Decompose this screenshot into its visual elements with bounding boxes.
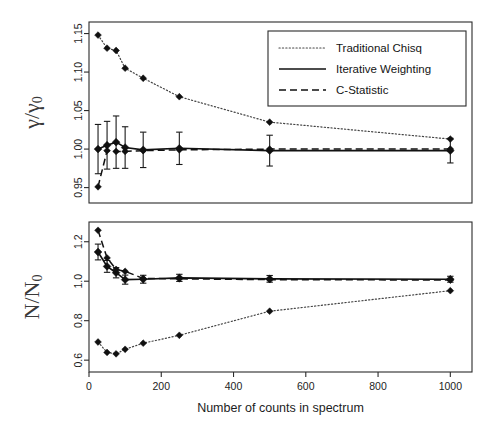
data-point-marker [122,346,129,353]
data-point-marker [122,268,129,275]
y-tick-label: 1.10 [72,62,84,83]
x-tick-label: 1000 [439,380,463,392]
data-point-marker [447,287,454,294]
counts-panel: 0.60.81.01.2N/N0 [19,222,472,372]
y-tick-label: 1.2 [72,234,84,249]
data-point-marker [113,148,120,155]
data-point-marker [266,308,273,315]
y-tick-label: 0.95 [72,177,84,198]
data-point-marker [176,332,183,339]
data-point-marker [94,145,102,153]
chart-canvas: 0.951.001.051.101.15γ/γ00.60.81.01.2N/N0… [0,0,494,435]
y-tick-label: 1.05 [72,100,84,121]
data-point-marker [176,93,183,100]
legend-label: Traditional Chisq [336,42,422,54]
series-line-dashed [98,149,450,187]
data-point-marker [447,136,454,143]
legend-label: C-Statistic [336,84,389,96]
y-axis-title: N/N0 [19,275,45,320]
data-point-marker [113,350,120,357]
data-point-marker [122,65,129,72]
data-point-marker [95,32,102,39]
panel-frame [89,222,472,372]
y-tick-label: 1.15 [72,23,84,44]
series-line-dotted [98,291,450,354]
y-tick-label: 1.0 [72,274,84,289]
legend: Traditional ChisqIterative WeightingC-St… [268,31,466,106]
data-point-marker [95,227,102,234]
data-point-marker [140,75,147,82]
x-tick-label: 400 [225,380,243,392]
data-point-marker [94,248,102,256]
data-point-marker [95,183,102,190]
y-axis-title: γ/γ0 [19,96,45,130]
x-axis: 02004006008001000Number of counts in spe… [86,372,462,415]
data-point-marker [104,147,111,154]
data-point-marker [140,340,147,347]
data-point-marker [104,45,111,52]
y-tick-label: 1.00 [72,139,84,160]
x-tick-label: 600 [297,380,315,392]
x-tick-label: 0 [86,380,92,392]
figure-container: 0.951.001.051.101.15γ/γ00.60.81.01.2N/N0… [0,0,494,435]
x-tick-label: 800 [369,380,387,392]
x-axis-title: Number of counts in spectrum [197,401,364,415]
legend-label: Iterative Weighting [336,63,431,75]
data-point-marker [113,47,120,54]
series-line-solid [98,252,450,280]
data-point-marker [266,119,273,126]
y-tick-label: 0.6 [72,353,84,368]
series-line-dashed [98,230,450,280]
x-tick-label: 200 [152,380,170,392]
y-tick-label: 0.8 [72,313,84,328]
data-point-marker [112,138,120,146]
